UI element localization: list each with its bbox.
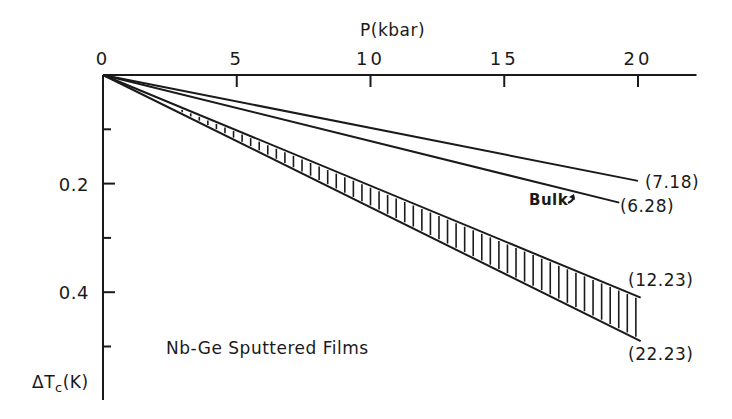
x-tick-label: 0 [96,48,110,69]
series-label-12-23: (12.23) [628,270,693,290]
series-label-22-23: (22.23) [628,344,693,364]
y-tick-label: 0.4 [59,282,89,303]
x-tick-label: 15 [490,48,519,69]
x-tick-label: 10 [356,48,385,69]
series-line-2 [103,75,641,298]
annotation-nb-ge: Nb-Ge Sputtered Films [166,338,369,358]
y-axis-title-sub: c [55,380,63,395]
x-tick-label: 20 [624,48,653,69]
chart: P(kbar) 05101520 0.20.4 ΔTc(K) Nb-Ge Spu… [0,0,732,419]
y-axis-title-main: ΔT [32,372,55,392]
y-axis-title: ΔTc(K) [32,372,89,395]
y-tick-label: 0.2 [59,173,89,194]
bulk-label: Bulk [529,191,568,209]
series-label-7-18: (7.18) [645,172,699,192]
series-label-6-28: (6.28) [620,196,674,216]
x-axis-title: P(kbar) [360,20,425,40]
y-axis-title-unit: (K) [63,372,89,392]
series-line-1 [103,75,619,203]
series-line-0 [103,75,638,181]
x-tick-label: 5 [230,48,244,69]
